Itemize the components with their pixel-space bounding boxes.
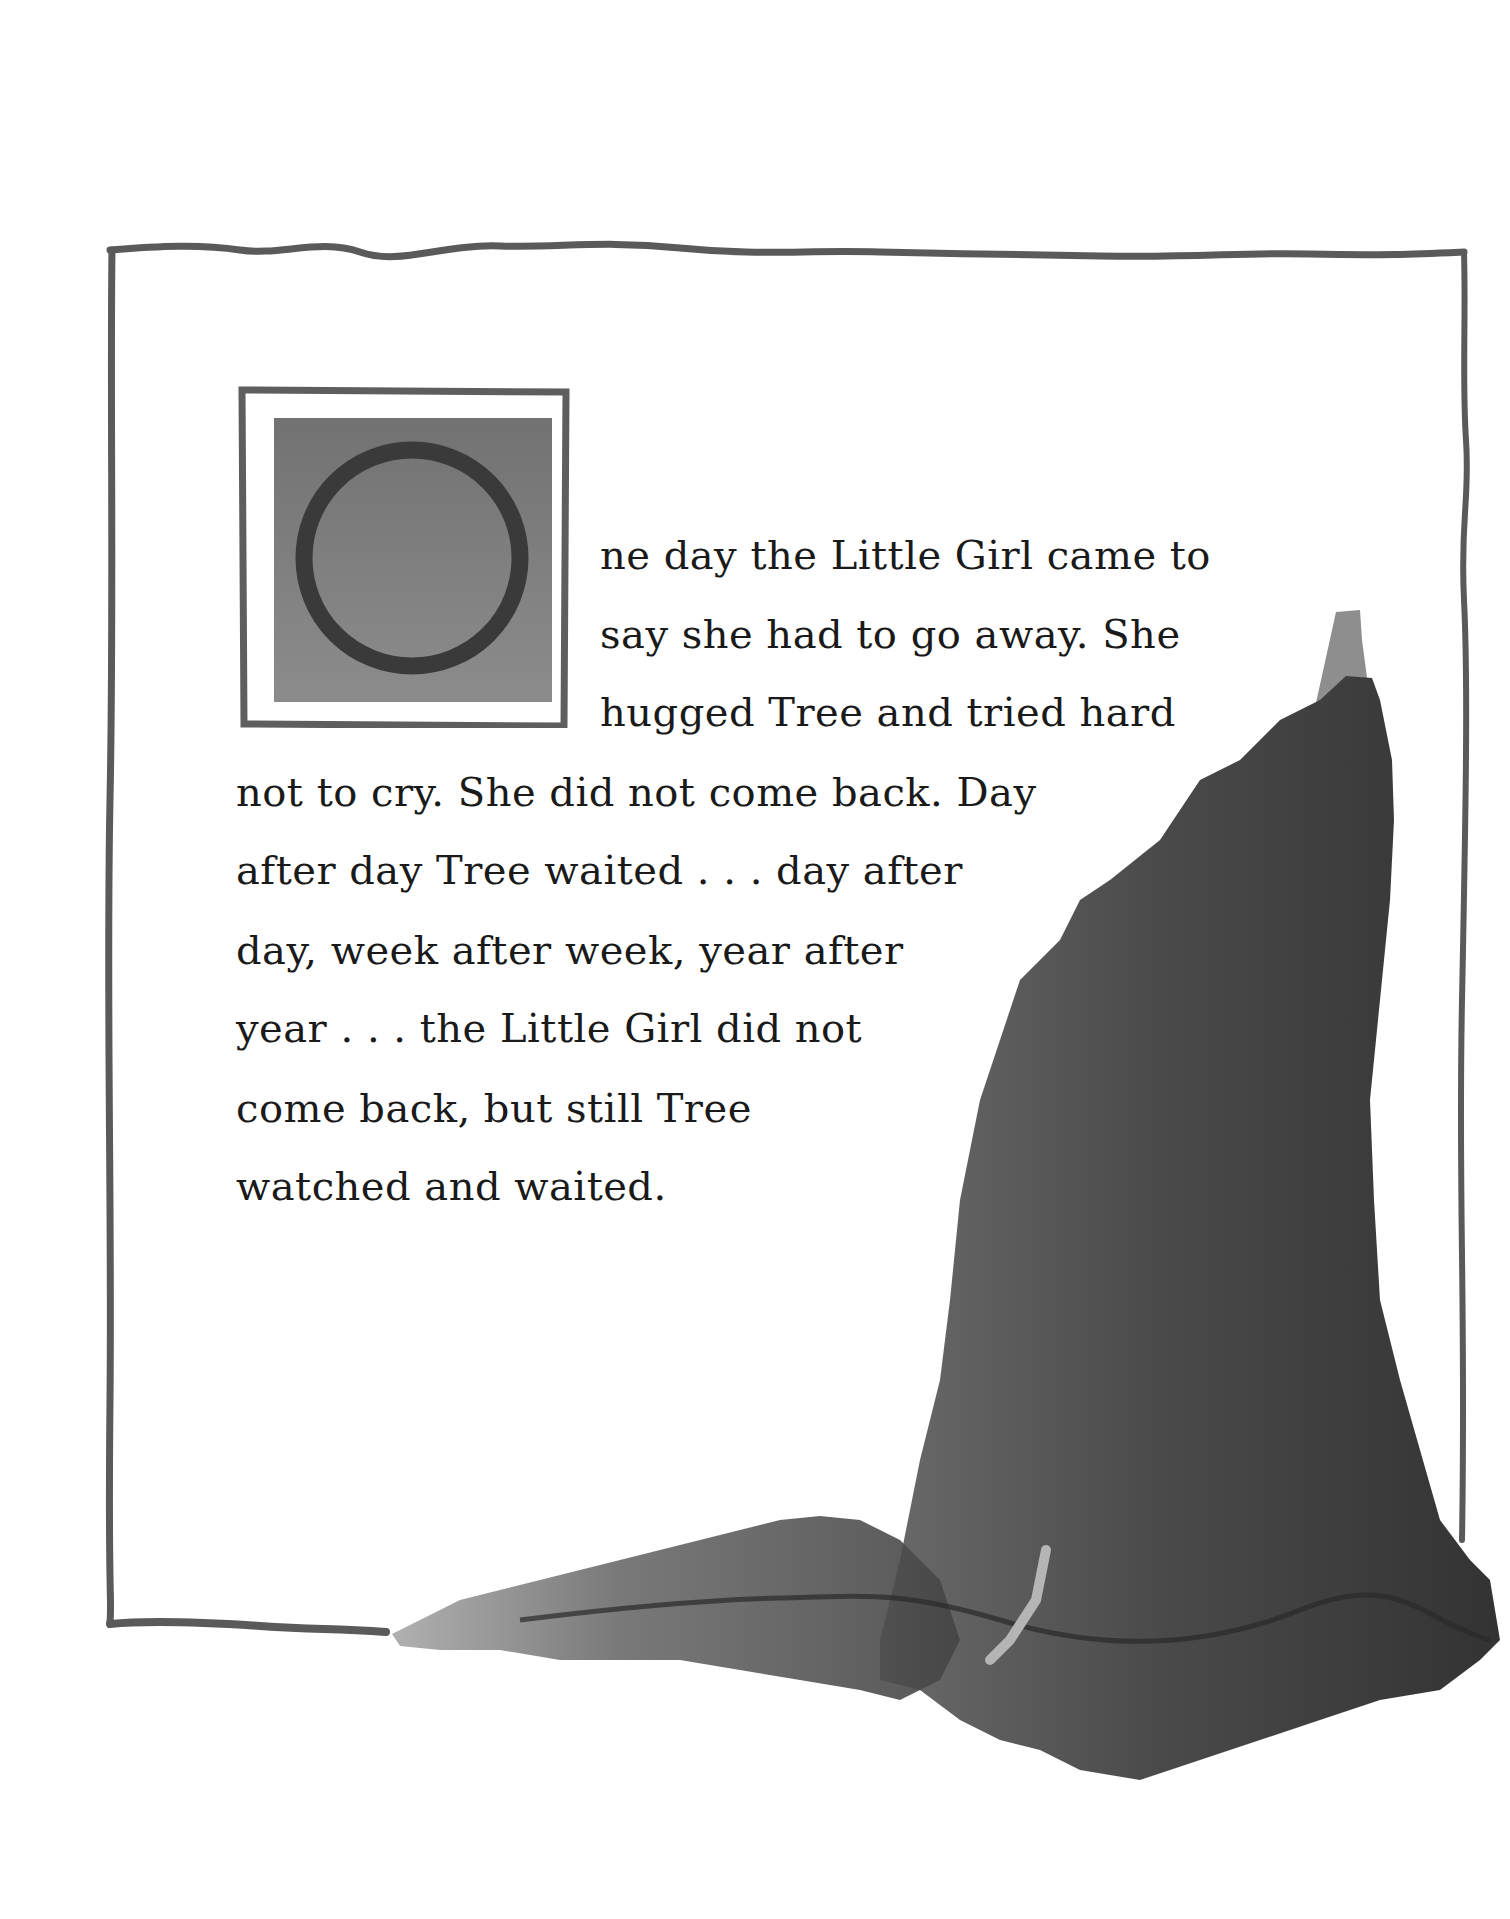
story-line: come back, but still Tree [236,1088,752,1128]
book-page: O ne day the Little Girl came to say she… [0,0,1510,1919]
story-line: not to cry. She did not come back. Day [236,772,1036,812]
drop-cap-ring-icon [236,386,570,728]
story-line: ne day the Little Girl came to [600,535,1211,575]
story-line: watched and waited. [236,1166,667,1206]
story-line: day, week after week, year after [236,930,904,970]
drop-cap-illustration: O [236,386,570,728]
story-line: after day Tree waited . . . day after [236,850,963,890]
story-line: year . . . the Little Girl did not [236,1008,862,1048]
story-line: hugged Tree and tried hard [600,692,1176,732]
story-line: say she had to go away. She [600,614,1181,654]
